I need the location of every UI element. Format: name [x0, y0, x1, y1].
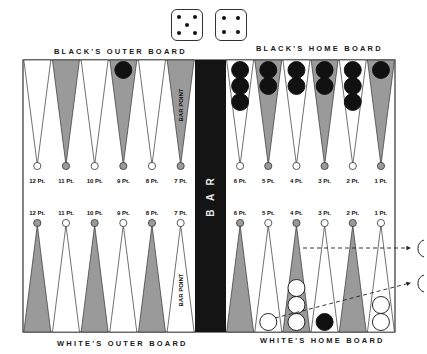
point-label: 7 Pt. [174, 178, 187, 184]
backgammon-board: 12 Pt.11 Pt.10 Pt.9 Pt.8 Pt.7 Pt.6 Pt.5 … [0, 0, 427, 354]
point-label: 4 Pt. [290, 210, 303, 216]
black-checker[interactable] [260, 62, 277, 79]
point-label: 6 Pt. [234, 178, 247, 184]
point-knob [34, 219, 41, 226]
black-checker[interactable] [288, 78, 305, 95]
point-label: 3 Pt. [318, 178, 331, 184]
point-knob [91, 219, 98, 226]
point-knob [293, 219, 300, 226]
point-label: 10 Pt. [87, 178, 103, 184]
black-checker[interactable] [344, 62, 361, 79]
point-knob [321, 219, 328, 226]
black-checker[interactable] [316, 62, 333, 79]
point-label: 3 Pt. [318, 210, 331, 216]
point-knob [349, 162, 356, 169]
point-knob [237, 219, 244, 226]
black-checker[interactable] [372, 62, 389, 79]
bar-point-label-top: BAR POINT [178, 88, 184, 121]
point-knob [377, 162, 384, 169]
point-label: 8 Pt. [146, 210, 159, 216]
point-label: 1 Pt. [375, 178, 388, 184]
point-knob [34, 162, 41, 169]
bar-point-label-bottom: BAR POINT [178, 273, 184, 306]
point-knob [148, 219, 155, 226]
point-knob [177, 219, 184, 226]
point-knob [120, 219, 127, 226]
point-knob [377, 219, 384, 226]
black-checker[interactable] [232, 78, 249, 95]
point-label: 11 Pt. [58, 210, 74, 216]
point-label: 6 Pt. [234, 210, 247, 216]
point-label: 1 Pt. [375, 210, 388, 216]
point-label: 2 Pt. [346, 210, 359, 216]
black-checker[interactable] [232, 94, 249, 111]
point-knob [265, 219, 272, 226]
black-checker[interactable] [288, 62, 305, 79]
point-label: 10 Pt. [87, 210, 103, 216]
white-checker[interactable] [288, 280, 305, 297]
black-checker[interactable] [115, 62, 132, 79]
bear-off-marker [418, 240, 424, 257]
point-knob [148, 162, 155, 169]
bear-off-marker [418, 275, 424, 292]
point-label: 2 Pt. [346, 178, 359, 184]
black-checker[interactable] [260, 78, 277, 95]
white-checker[interactable] [260, 314, 277, 331]
point-label: 12 Pt. [29, 178, 45, 184]
point-knob [91, 162, 98, 169]
point-knob [62, 219, 69, 226]
black-checker[interactable] [344, 94, 361, 111]
point-knob [321, 162, 328, 169]
point-knob [177, 162, 184, 169]
point-label: 5 Pt. [262, 210, 275, 216]
point-knob [265, 162, 272, 169]
black-checker[interactable] [344, 78, 361, 95]
black-checker[interactable] [232, 62, 249, 79]
point-label: 8 Pt. [146, 178, 159, 184]
point-label: 9 Pt. [117, 210, 130, 216]
white-checker[interactable] [372, 314, 389, 331]
black-checker[interactable] [316, 314, 333, 331]
white-checker[interactable] [372, 297, 389, 314]
point-knob [293, 162, 300, 169]
black-checker[interactable] [316, 78, 333, 95]
white-checker[interactable] [288, 314, 305, 331]
point-label: 4 Pt. [290, 178, 303, 184]
point-knob [120, 162, 127, 169]
bar-label: B A R [205, 175, 216, 216]
point-label: 11 Pt. [58, 178, 74, 184]
point-knob [349, 219, 356, 226]
point-label: 12 Pt. [29, 210, 45, 216]
point-label: 9 Pt. [117, 178, 130, 184]
point-knob [62, 162, 69, 169]
point-label: 5 Pt. [262, 178, 275, 184]
point-label: 7 Pt. [174, 210, 187, 216]
point-knob [237, 162, 244, 169]
